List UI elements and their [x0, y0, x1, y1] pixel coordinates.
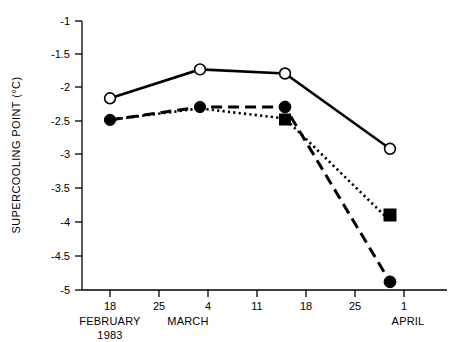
x-tick-label: 18: [104, 300, 116, 312]
chart-canvas: -1 -1.5 -2 -2.5 -3 -3.5 -4 -4.5 -5 SUPER…: [0, 0, 459, 342]
series-filled-circle-dashed: [104, 101, 396, 288]
y-tick-label: -2.5: [51, 115, 70, 127]
filled-square-marker: [280, 114, 291, 125]
y-tick-label: -1: [60, 15, 70, 27]
filled-circle-marker: [279, 101, 291, 113]
y-tick-label: -1.5: [51, 48, 70, 60]
filled-circle-marker: [194, 101, 205, 112]
dashed-line-path: [110, 107, 390, 282]
solid-line-path: [110, 69, 390, 148]
axis-frame: [82, 21, 447, 290]
series-open-circle-solid: [105, 64, 396, 154]
open-circle-marker: [385, 143, 396, 154]
y-tick-label: -4: [60, 216, 70, 228]
y-tick-label: -5: [60, 284, 70, 296]
filled-circle-marker: [384, 276, 396, 288]
dotted-line-path: [110, 108, 390, 220]
x-tick-label: 18: [300, 300, 312, 312]
x-tick-label: 4: [205, 300, 211, 312]
series-filled-square-dotted: [110, 108, 396, 221]
y-tick-label: -4.5: [51, 250, 70, 262]
y-tick-label: -3: [60, 148, 70, 160]
y-tick-label: -3.5: [51, 182, 70, 194]
y-axis-title: SUPERCOOLING POINT (°C): [10, 76, 22, 233]
x-axis-ticks: [110, 290, 404, 297]
month-label-april: APRIL: [392, 315, 425, 327]
month-label-february: FEBRUARY: [79, 315, 141, 327]
open-circle-marker: [195, 64, 206, 75]
x-tick-label: 25: [349, 300, 361, 312]
x-tick-label: 1: [401, 300, 407, 312]
x-axis-tick-labels: 18 25 4 11 18 25 1: [104, 300, 407, 312]
open-circle-marker: [105, 93, 116, 104]
filled-square-marker: [384, 209, 396, 221]
x-tick-label: 11: [251, 300, 262, 312]
filled-circle-marker: [104, 114, 115, 125]
y-axis-ticks: [75, 21, 82, 290]
year-label-1983: 1983: [97, 329, 122, 341]
x-tick-label: 25: [153, 300, 165, 312]
open-circle-marker: [280, 68, 291, 79]
supercooling-point-chart: -1 -1.5 -2 -2.5 -3 -3.5 -4 -4.5 -5 SUPER…: [0, 0, 459, 342]
y-tick-label: -2: [60, 81, 70, 93]
month-label-march: MARCH: [167, 315, 208, 327]
x-axis-month-labels: FEBRUARY 1983 MARCH APRIL: [79, 315, 424, 341]
y-axis-tick-labels: -1 -1.5 -2 -2.5 -3 -3.5 -4 -4.5 -5: [51, 15, 70, 296]
